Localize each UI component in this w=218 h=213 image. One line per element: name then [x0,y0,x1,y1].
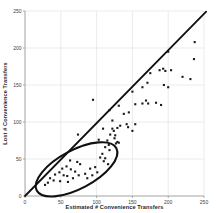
scatter-point [86,177,88,179]
x-axis-label: Estimated # Convenience Transfers [66,204,164,210]
y-axis-label: Lost # Convenience Transfers [2,62,8,144]
scatter-point [155,102,157,104]
scatter-point [113,130,115,132]
y-tick-label: 150 [13,82,22,88]
x-tick-label: 200 [164,199,173,205]
chart-svg: 050100150200250050100150200250 Estimated… [0,0,218,213]
scatter-point [61,168,63,170]
x-tick-label: 50 [58,199,64,205]
scatter-point [106,139,108,141]
scatter-point [58,171,60,173]
scatter-point [92,99,94,101]
scatter-point [164,70,166,72]
identity-line [25,12,206,196]
scatter-point [189,78,191,80]
scatter-point [91,174,93,176]
scatter-point [141,102,143,104]
scatter-point [53,179,55,181]
scatter-point [76,161,78,163]
scatter-point [113,137,115,139]
tick-labels: 050100150200250050100150200250 [13,8,208,205]
scatter-point [146,82,148,84]
scatter-point [111,119,113,121]
scatter-point [63,174,65,176]
scatter-point [131,130,133,132]
scatter-point [59,180,61,182]
scatter-point [78,174,80,176]
y-tick-label: 100 [13,119,22,125]
scatter-point [89,168,91,170]
scatter-point [114,134,116,136]
identity-line [25,12,206,196]
x-tick-label: 250 [200,199,209,205]
y-tick-label: 0 [19,193,22,199]
scatter-point [79,163,81,165]
scatter-point [77,134,79,136]
y-tick-label: 200 [13,45,22,51]
scatter-point [111,128,113,130]
scatter-point [163,84,165,86]
scatter-point [101,153,103,155]
scatter-point [162,68,164,70]
scatter-point [131,91,133,93]
scatter-point [118,142,120,144]
y-tick-label: 50 [16,156,22,162]
scatter-point [193,58,195,60]
scatter-point [94,166,96,168]
scatter-point [141,86,143,88]
scatter-point [96,171,98,173]
scatter-point [49,177,51,179]
scatter-point [181,76,183,78]
scatter-point [118,105,120,107]
scatter-point [66,175,68,177]
scatter-point [123,113,125,115]
scatter-point [194,41,196,43]
scatter-point [99,156,101,158]
scatter-point [149,72,151,74]
scatter-points [44,41,196,186]
scatter-point [98,139,100,141]
scatter-point [67,181,69,183]
scatter-point [127,126,129,128]
scatter-point [70,168,72,170]
scatter-point [54,173,56,175]
scatter-point [160,104,162,106]
scatter-point [102,128,104,130]
scatter-point [134,103,136,105]
scatter-point [119,125,121,127]
scatter-point [134,123,136,125]
scatter-point [74,171,76,173]
scatter-point [47,182,49,184]
scatter-point [116,127,118,129]
x-tick-label: 0 [24,199,27,205]
scatter-point [159,69,161,71]
scatter-point [170,69,172,71]
scatter-chart: 050100150200250050100150200250 Estimated… [0,0,218,213]
scatter-point [107,163,109,165]
scatter-point [126,123,128,125]
scatter-point [128,111,130,113]
scatter-point [103,160,105,162]
y-tick-label: 250 [13,8,22,14]
scatter-point [72,177,74,179]
scatter-point [108,149,110,151]
scatter-point [104,146,106,148]
scatter-point [65,165,67,167]
scatter-point [145,99,147,101]
scatter-point [44,184,46,186]
scatter-point [84,173,86,175]
scatter-point [109,134,111,136]
scatter-point [108,144,110,146]
scatter-point [104,157,106,159]
scatter-point [147,102,149,104]
scatter-point [69,159,71,161]
scatter-point [167,86,169,88]
